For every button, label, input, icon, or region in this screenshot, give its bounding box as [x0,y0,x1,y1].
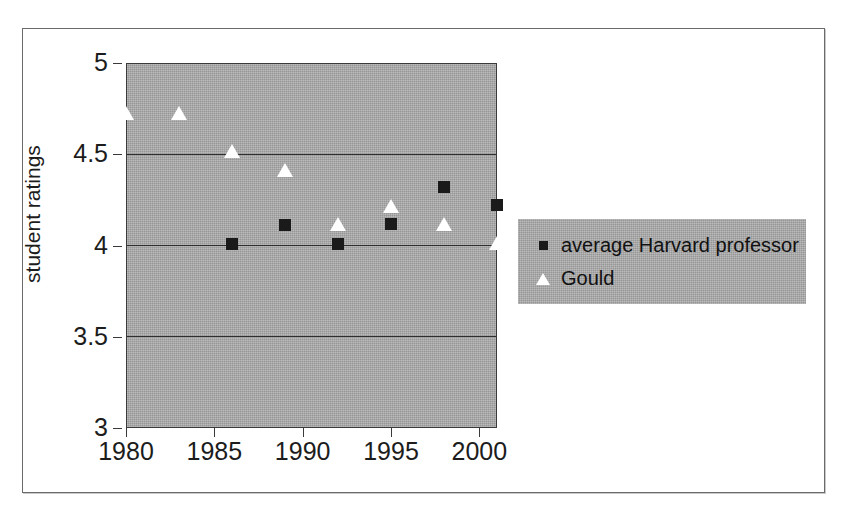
legend-item-0[interactable]: average Harvard professor [534,229,806,262]
y-tick-3.5 [113,337,122,338]
legend-label-1: Gould [561,267,614,290]
legend-label-0: average Harvard professor [561,234,799,257]
x-tick-1985 [214,428,215,437]
x-tick-1995 [391,428,392,437]
plot-region [126,63,497,428]
square-marker-icon-shape [539,241,548,250]
chart-legend: average Harvard professorGould [518,219,806,304]
x-tick-label-1990: 1990 [258,437,348,465]
triangle-marker-icon [534,273,552,285]
x-tick-label-1980: 1980 [81,437,171,465]
gridline-y-4 [127,245,496,246]
x-tick-label-1985: 1985 [169,437,259,465]
gridline-y-4.5 [127,154,496,155]
y-tick-label-4.5: 4.5 [40,141,108,166]
triangle-marker-icon-shape [536,273,550,285]
y-tick-label-5: 5 [40,50,108,75]
y-tick-4.5 [113,154,122,155]
x-tick-1980 [126,428,127,437]
x-tick-2000 [479,428,480,437]
x-tick-1990 [303,428,304,437]
y-axis-title: student ratings [21,104,45,324]
x-tick-label-1995: 1995 [346,437,436,465]
legend-item-1[interactable]: Gould [534,262,806,295]
y-tick-label-4: 4 [40,233,108,258]
gridline-y-3.5 [127,336,496,337]
y-tick-3 [113,428,122,429]
y-tick-label-3.5: 3.5 [40,324,108,349]
x-tick-label-2000: 2000 [434,437,524,465]
y-tick-5 [113,63,122,64]
square-marker-icon [534,241,552,250]
y-tick-4 [113,246,122,247]
scatter-chart: student ratings 33.544.55 19801985199019… [0,0,851,522]
